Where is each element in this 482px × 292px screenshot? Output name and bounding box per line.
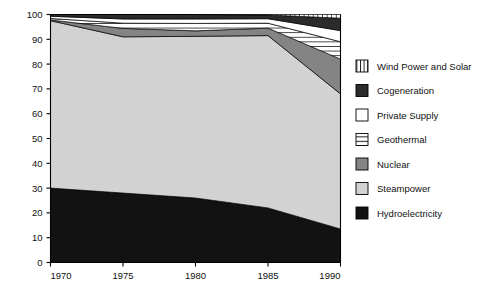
cogeneration-swatch <box>356 85 368 97</box>
x-tick-label: 1985 <box>257 270 278 281</box>
x-tick-label: 1980 <box>185 270 206 281</box>
legend-label: Cogeneration <box>377 85 434 96</box>
y-tick-label: 90 <box>32 34 43 45</box>
y-tick-label: 10 <box>32 232 43 243</box>
chart-canvas: 19701975198019851990 0102030405060708090… <box>0 0 482 292</box>
y-tick-label: 40 <box>32 158 43 169</box>
private-supply-swatch <box>356 109 368 121</box>
legend-item[interactable]: Private Supply <box>356 109 439 121</box>
legend-item[interactable]: Steampower <box>356 183 430 195</box>
y-tick-label: 60 <box>32 108 43 119</box>
legend-label: Hydroelectricity <box>377 208 442 219</box>
y-tick-label: 70 <box>32 83 43 94</box>
legend-item[interactable]: Geothermal <box>356 134 427 146</box>
y-tick-label: 20 <box>32 207 43 218</box>
geothermal-swatch <box>356 134 368 146</box>
y-tick-label: 80 <box>32 59 43 70</box>
legend-label: Nuclear <box>377 159 410 170</box>
y-tick-label: 0 <box>37 257 42 268</box>
y-tick-label: 100 <box>27 9 43 20</box>
legend-label: Steampower <box>377 183 430 194</box>
wind-power-and-solar-swatch <box>356 60 368 72</box>
y-tick-label: 30 <box>32 183 43 194</box>
legend-label: Geothermal <box>377 134 427 145</box>
legend-item[interactable]: Cogeneration <box>356 85 434 97</box>
x-tick-label: 1975 <box>112 270 133 281</box>
nuclear-swatch <box>356 158 368 170</box>
series-areas <box>51 15 341 263</box>
y-tick-label: 50 <box>32 133 43 144</box>
hydroelectricity-swatch <box>356 207 368 219</box>
legend-item[interactable]: Nuclear <box>356 158 410 170</box>
x-tick-label: 1990 <box>319 270 340 281</box>
steampower-swatch <box>356 183 368 195</box>
legend-label: Private Supply <box>377 110 439 121</box>
x-tick-label: 1970 <box>51 270 72 281</box>
legend-label: Wind Power and Solar <box>377 61 472 72</box>
stacked-area-chart: 19701975198019851990 0102030405060708090… <box>0 0 482 292</box>
